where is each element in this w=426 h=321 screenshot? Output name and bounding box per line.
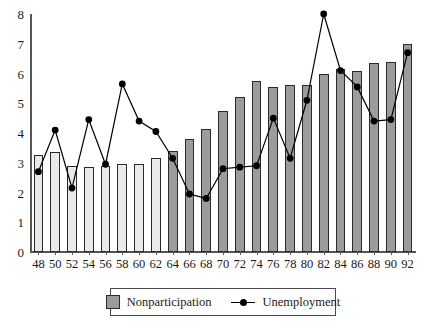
chart-container: 012345678 485052545658606264666870727476… (0, 0, 426, 321)
x-tick-label: 82 (317, 258, 330, 271)
data-point-marker (320, 11, 327, 18)
y-tick-label: 0 (2, 246, 24, 259)
data-point-marker (287, 155, 294, 162)
data-point-marker (236, 164, 243, 171)
legend-line-dot-icon (231, 297, 255, 307)
data-point-marker (253, 162, 260, 169)
x-tick (257, 251, 258, 255)
x-tick (156, 251, 157, 255)
data-point-marker (337, 67, 344, 74)
x-tick (173, 251, 174, 255)
x-tick (340, 251, 341, 255)
x-tick (206, 251, 207, 255)
x-tick (55, 251, 56, 255)
data-point-marker (69, 185, 76, 192)
x-tick-label: 70 (217, 258, 230, 271)
data-point-marker (186, 191, 193, 198)
y-tick-label: 5 (2, 97, 24, 110)
x-tick-label: 50 (49, 258, 62, 271)
legend-item-nonparticipation: Nonparticipation (106, 295, 212, 310)
data-point-marker (404, 49, 411, 56)
x-tick-label: 92 (401, 258, 414, 271)
x-tick (122, 251, 123, 255)
x-tick (273, 251, 274, 255)
x-tick-label: 64 (166, 258, 179, 271)
line-series-unemployment (30, 14, 416, 252)
y-tick-label: 3 (2, 156, 24, 169)
x-tick (408, 251, 409, 255)
x-tick-label: 86 (351, 258, 364, 271)
legend-item-unemployment: Unemployment (231, 295, 340, 310)
x-tick (106, 251, 107, 255)
data-point-marker (203, 195, 210, 202)
y-tick-label: 6 (2, 67, 24, 80)
x-tick-label: 52 (66, 258, 79, 271)
x-tick (38, 251, 39, 255)
legend-label-nonparticipation: Nonparticipation (127, 295, 212, 310)
data-point-marker (387, 116, 394, 123)
x-tick-label: 84 (334, 258, 347, 271)
data-point-marker (152, 128, 159, 135)
x-tick-label: 68 (200, 258, 213, 271)
data-point-marker (169, 155, 176, 162)
data-point-marker (85, 116, 92, 123)
y-tick-label: 1 (2, 216, 24, 229)
x-tick (139, 251, 140, 255)
y-axis-tick-labels: 012345678 (0, 0, 24, 321)
x-tick-label: 76 (267, 258, 280, 271)
x-tick-label: 58 (116, 258, 129, 271)
x-tick (324, 251, 325, 255)
data-point-marker (119, 81, 126, 88)
x-tick (72, 251, 73, 255)
x-tick-label: 66 (183, 258, 196, 271)
x-tick (357, 251, 358, 255)
data-point-marker (304, 97, 311, 104)
x-tick-label: 74 (250, 258, 263, 271)
x-tick (240, 251, 241, 255)
y-tick-label: 4 (2, 127, 24, 140)
x-tick (189, 251, 190, 255)
y-tick-label: 7 (2, 37, 24, 50)
data-point-marker (354, 83, 361, 90)
data-point-marker (220, 165, 227, 172)
x-tick-label: 78 (284, 258, 297, 271)
y-tick-label: 8 (2, 8, 24, 21)
data-point-marker (102, 161, 109, 168)
x-tick-label: 90 (385, 258, 398, 271)
x-tick-label: 48 (32, 258, 45, 271)
x-tick (89, 251, 90, 255)
y-tick-label: 2 (2, 186, 24, 199)
legend-swatch-icon (106, 295, 120, 309)
data-point-marker (35, 168, 42, 175)
x-tick-label: 54 (82, 258, 95, 271)
x-tick-label: 62 (150, 258, 163, 271)
x-tick-label: 56 (99, 258, 112, 271)
x-tick-label: 72 (234, 258, 247, 271)
data-point-marker (136, 118, 143, 125)
x-tick (290, 251, 291, 255)
x-tick-label: 60 (133, 258, 146, 271)
x-tick-label: 88 (368, 258, 381, 271)
x-tick (307, 251, 308, 255)
x-tick-label: 80 (301, 258, 314, 271)
data-point-marker (52, 127, 59, 134)
x-tick (223, 251, 224, 255)
data-point-marker (371, 118, 378, 125)
x-tick (374, 251, 375, 255)
chart-legend: Nonparticipation Unemployment (110, 288, 336, 316)
data-point-marker (270, 115, 277, 122)
legend-label-unemployment: Unemployment (262, 295, 340, 310)
x-tick (391, 251, 392, 255)
